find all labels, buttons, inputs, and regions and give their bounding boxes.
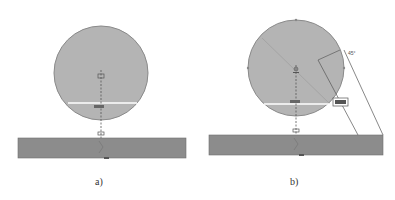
panel-a (18, 26, 186, 159)
panel-b-center-mark-icon (294, 67, 298, 71)
panel-b-dim-mark-icon (290, 100, 300, 103)
panel-b-caption: b) (290, 176, 298, 187)
panel-b-leader-line-2 (344, 50, 383, 135)
panel-b-center-tick-icon (293, 72, 299, 73)
panel-a-base-mark-icon (104, 157, 109, 159)
panel-b: 45° (209, 19, 383, 156)
diagram-canvas: 45° (0, 0, 395, 200)
panel-b-bar (209, 135, 383, 155)
panel-b-angle-label: 45° (348, 50, 356, 56)
panel-b-left-grip-icon (247, 67, 249, 69)
panel-b-right-grip-icon (343, 67, 345, 69)
panel-a-caption: a) (95, 176, 103, 187)
panel-b-top-grip-icon (295, 19, 297, 21)
panel-b-base-mark-icon (299, 154, 304, 156)
panel-b-dimension-box-text-icon (335, 100, 346, 104)
panel-a-dim-mark-icon (94, 105, 104, 108)
